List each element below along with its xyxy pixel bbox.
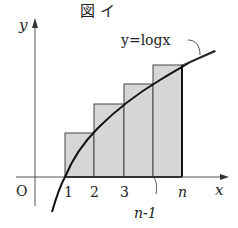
curve-label-leader <box>188 40 200 55</box>
y-axis-arrow-icon <box>32 18 38 28</box>
rect-1-2 <box>65 133 94 177</box>
x-axis-label: x <box>215 181 224 199</box>
tick-3: 3 <box>120 184 129 200</box>
figure-caption: 図 イ <box>80 2 115 20</box>
rect-3-n-1 <box>124 84 153 177</box>
n-1-leader <box>154 178 157 194</box>
log-curve-thin-tail <box>182 51 216 65</box>
tick-1: 1 <box>64 184 73 200</box>
tick-n-1: n-1 <box>134 205 157 221</box>
rect-2-3 <box>94 104 124 177</box>
upper-sum-rectangles <box>65 65 182 177</box>
log-riemann-diagram: 図 イ y y=logx O x 1 2 3 n-1 n <box>0 0 238 228</box>
y-axis-label: y <box>18 16 28 34</box>
curve-label: y=logx <box>120 32 171 48</box>
origin-label: O <box>16 183 27 199</box>
x-axis-arrow-icon <box>220 174 229 180</box>
tick-2: 2 <box>90 184 99 200</box>
tick-n: n <box>178 184 187 200</box>
